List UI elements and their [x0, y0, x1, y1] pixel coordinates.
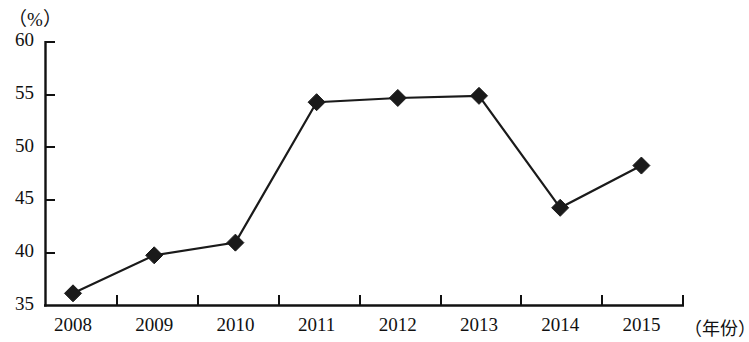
data-point-marker: [552, 199, 569, 216]
data-series-line: [73, 96, 641, 293]
data-point-marker: [227, 234, 244, 251]
data-point-marker: [65, 285, 82, 302]
x-axis-tick-label: 2012: [358, 314, 438, 336]
y-axis-tick-label: 45: [0, 187, 34, 209]
x-axis-tick-label: 2011: [277, 314, 357, 336]
y-axis-tick-label: 55: [0, 82, 34, 104]
x-axis-tick-label: 2008: [33, 314, 113, 336]
data-point-marker: [308, 94, 325, 111]
data-point-marker: [471, 87, 488, 104]
y-axis-tick-label: 60: [0, 29, 34, 51]
axis-lines: [44, 41, 684, 307]
y-axis-ticks: [46, 42, 55, 253]
y-axis-unit-label: （%）: [8, 4, 62, 31]
x-axis-tick-label: 2015: [601, 314, 681, 336]
x-axis-tick-label: 2013: [439, 314, 519, 336]
y-axis-tick-label: 40: [0, 240, 34, 262]
data-point-marker: [389, 89, 406, 106]
x-axis-unit-label: （年份）: [684, 314, 749, 340]
x-axis-ticks: [117, 295, 683, 305]
x-axis-tick-label: 2010: [195, 314, 275, 336]
y-axis-tick-label: 35: [0, 293, 34, 315]
data-point-markers: [65, 87, 650, 301]
data-point-marker: [146, 247, 163, 264]
y-axis-tick-label: 50: [0, 135, 34, 157]
data-point-marker: [633, 157, 650, 174]
x-axis-tick-label: 2014: [520, 314, 600, 336]
x-axis-tick-label: 2009: [114, 314, 194, 336]
